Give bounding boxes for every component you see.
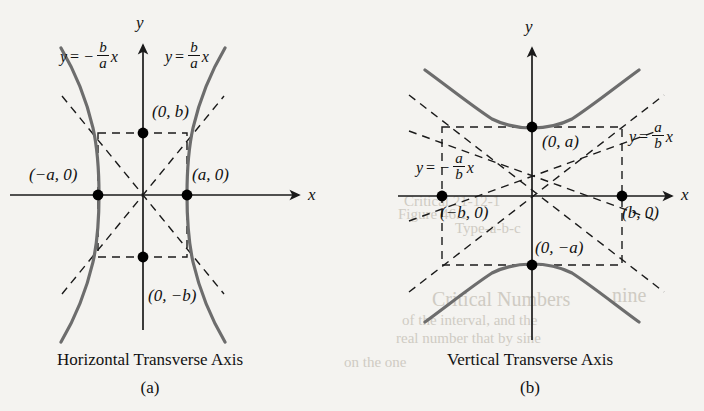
label-vertex-left-a: (−a, 0): [29, 166, 77, 183]
panel-a-subcaption: (a): [0, 378, 300, 398]
panel-b-caption: Vertical Transverse Axis: [380, 350, 680, 370]
label-vertex-bottom-b: (0, −a): [535, 239, 583, 256]
point-covertex-top-a: [138, 128, 149, 139]
eq-fraction: a b: [652, 120, 664, 152]
eq-numerator: a: [652, 120, 664, 135]
eq-numerator: b: [97, 40, 109, 55]
hyperbola-figure: Critical 21-12-1 Figure 46.1 Critical Nu…: [0, 0, 704, 411]
point-covertex-bottom-a: [138, 252, 149, 263]
label-covertex-left-b: (−b, 0): [440, 204, 488, 221]
x-axis-label-a: x: [308, 186, 316, 203]
eq-sign: −: [438, 160, 451, 176]
eq-numerator: a: [453, 151, 465, 166]
label-covertex-right-b: (b, 0): [622, 204, 659, 221]
panel-a-caption: Horizontal Transverse Axis: [0, 350, 300, 370]
label-covertex-top-a: (0, b): [152, 103, 189, 120]
point-vertex-left-a: [93, 190, 104, 201]
point-covertex-left-b: [437, 191, 448, 202]
eq-equals: =: [424, 160, 437, 176]
eq-sign: −: [82, 49, 95, 65]
eq-lhs: y: [60, 49, 67, 65]
point-vertex-top-b: [527, 122, 538, 133]
eq-numerator: b: [188, 40, 200, 55]
asymptote-equation-left-a: y = − b a x: [60, 41, 118, 73]
eq-equals: =: [637, 129, 650, 145]
eq-fraction: a b: [453, 151, 465, 183]
eq-denominator: b: [453, 167, 465, 182]
eq-equals: =: [68, 49, 81, 65]
eq-variable: x: [467, 160, 474, 176]
eq-fraction: b a: [97, 40, 109, 72]
x-axis-label-b: x: [681, 186, 689, 203]
eq-lhs: y: [165, 49, 172, 65]
eq-equals: =: [173, 49, 186, 65]
eq-denominator: b: [652, 136, 664, 151]
panel-b-plot: [398, 48, 672, 340]
eq-lhs: y: [629, 129, 636, 145]
asymptote-equation-right-b: y = a b x: [629, 121, 673, 153]
eq-variable: x: [111, 49, 118, 65]
eq-lhs: y: [416, 160, 423, 176]
label-covertex-bottom-a: (0, −b): [148, 287, 196, 304]
asymptote-equation-left-b: y = − a b x: [416, 152, 474, 184]
label-vertex-right-a: (a, 0): [192, 166, 229, 183]
eq-denominator: a: [97, 56, 109, 71]
point-vertex-right-a: [182, 190, 193, 201]
eq-variable: x: [666, 129, 673, 145]
point-vertex-bottom-b: [527, 260, 538, 271]
y-axis-label-b: y: [525, 18, 533, 35]
eq-variable: x: [202, 49, 209, 65]
panel-b-subcaption: (b): [380, 378, 680, 398]
eq-denominator: a: [188, 56, 200, 71]
label-vertex-top-b: (0, a): [542, 133, 579, 150]
point-covertex-right-b: [617, 191, 628, 202]
eq-fraction: b a: [188, 40, 200, 72]
y-axis-label-a: y: [136, 14, 144, 31]
asymptote-equation-right-a: y = b a x: [165, 41, 209, 73]
